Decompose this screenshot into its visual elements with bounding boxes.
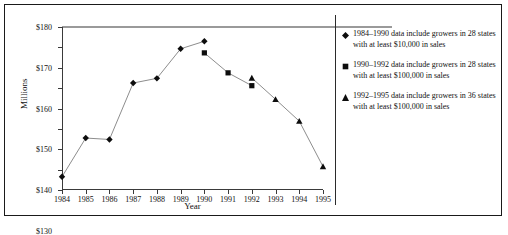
legend-entry: 1984–1990 data include growers in 28 sta… <box>342 29 504 50</box>
legend-entry-label: 1992–1995 data include growers in 36 sta… <box>353 91 504 112</box>
series-line <box>62 41 204 177</box>
x-tick-label: 1984 <box>54 195 70 204</box>
x-tick <box>133 190 134 194</box>
triangle-marker <box>342 94 349 101</box>
diamond-data-point <box>106 136 112 142</box>
chart-legend: 1984–1990 data include growers in 28 sta… <box>342 29 504 122</box>
x-tick <box>181 190 182 194</box>
x-tick <box>109 190 110 194</box>
legend-entry: 1992–1995 data include growers in 36 sta… <box>342 91 504 112</box>
diamond-marker <box>342 32 349 39</box>
triangle-data-point <box>249 75 255 81</box>
x-tick-label: 1986 <box>101 195 117 204</box>
legend-divider <box>335 15 336 205</box>
x-tick-label: 1993 <box>268 195 284 204</box>
diamond-data-point <box>201 38 207 44</box>
x-tick-label: 1990 <box>196 195 212 204</box>
legend-entry-label: 1984–1990 data include growers in 28 sta… <box>353 29 504 50</box>
x-tick <box>86 190 87 194</box>
legend-entry-label: 1990–1992 data include growers in 28 sta… <box>353 60 504 81</box>
triangle-data-point <box>320 163 326 169</box>
square-data-point <box>249 83 254 88</box>
data-series-layer <box>62 27 323 190</box>
x-tick <box>299 190 300 194</box>
x-tick-label: 1988 <box>149 195 165 204</box>
chart-frame: Millions Year $100$110$120$130$140$150$1… <box>4 4 502 216</box>
y-tick-label: $140 <box>36 186 52 195</box>
square-marker <box>342 63 349 70</box>
x-tick-label: 1991 <box>220 195 236 204</box>
y-axis-title: Millions <box>19 78 29 109</box>
x-tick <box>276 190 277 194</box>
y-tick-label: $150 <box>36 145 52 154</box>
series-line <box>252 78 323 167</box>
diamond-data-point <box>130 80 136 86</box>
y-tick-label: $160 <box>36 104 52 113</box>
diamond-data-point <box>83 135 89 141</box>
x-tick-label: 1995 <box>315 195 331 204</box>
x-tick <box>204 190 205 194</box>
legend-entry: 1990–1992 data include growers in 28 sta… <box>342 60 504 81</box>
y-tick-label: $180 <box>36 23 52 32</box>
x-tick <box>228 190 229 194</box>
x-tick <box>323 190 324 194</box>
x-tick-label: 1987 <box>125 195 141 204</box>
x-tick-label: 1992 <box>244 195 260 204</box>
x-tick <box>157 190 158 194</box>
x-tick <box>62 190 63 194</box>
series-line <box>204 53 251 86</box>
x-tick-label: 1989 <box>173 195 189 204</box>
x-tick-label: 1994 <box>291 195 307 204</box>
diamond-data-point <box>59 174 65 180</box>
square-data-point <box>225 70 230 75</box>
plot-area: $100$110$120$130$140$150$160$170$180 198… <box>62 27 323 190</box>
x-tick-label: 1985 <box>78 195 94 204</box>
y-tick-label: $170 <box>36 63 52 72</box>
x-tick <box>252 190 253 194</box>
square-data-point <box>202 50 207 55</box>
